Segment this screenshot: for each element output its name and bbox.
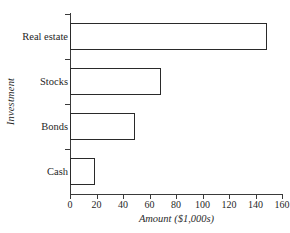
x-tick-label: 140 xyxy=(241,199,271,210)
x-tick-label: 40 xyxy=(108,199,138,210)
bar-bonds xyxy=(70,113,135,141)
category-label-real-estate: Real estate xyxy=(6,31,68,42)
y-tick xyxy=(65,59,70,60)
x-tick-label: 80 xyxy=(161,199,191,210)
category-label-cash: Cash xyxy=(6,166,68,177)
y-tick xyxy=(65,149,70,150)
x-tick-label: 60 xyxy=(135,199,165,210)
plot-area xyxy=(70,14,282,194)
category-label-stocks: Stocks xyxy=(6,76,68,87)
x-tick-label: 100 xyxy=(188,199,218,210)
bar-cash xyxy=(70,158,95,186)
x-tick-label: 120 xyxy=(214,199,244,210)
x-tick-label: 160 xyxy=(267,199,290,210)
bar-real-estate xyxy=(70,23,267,51)
bar-stocks xyxy=(70,68,161,96)
y-tick xyxy=(65,104,70,105)
x-tick-label: 20 xyxy=(82,199,112,210)
y-tick xyxy=(65,14,70,15)
category-label-bonds: Bonds xyxy=(6,121,68,132)
x-axis-title: Amount ($1,000s) xyxy=(70,213,283,224)
x-tick-label: 0 xyxy=(55,199,85,210)
bar-chart: Investment Real estateStocksBondsCash 02… xyxy=(0,0,290,233)
